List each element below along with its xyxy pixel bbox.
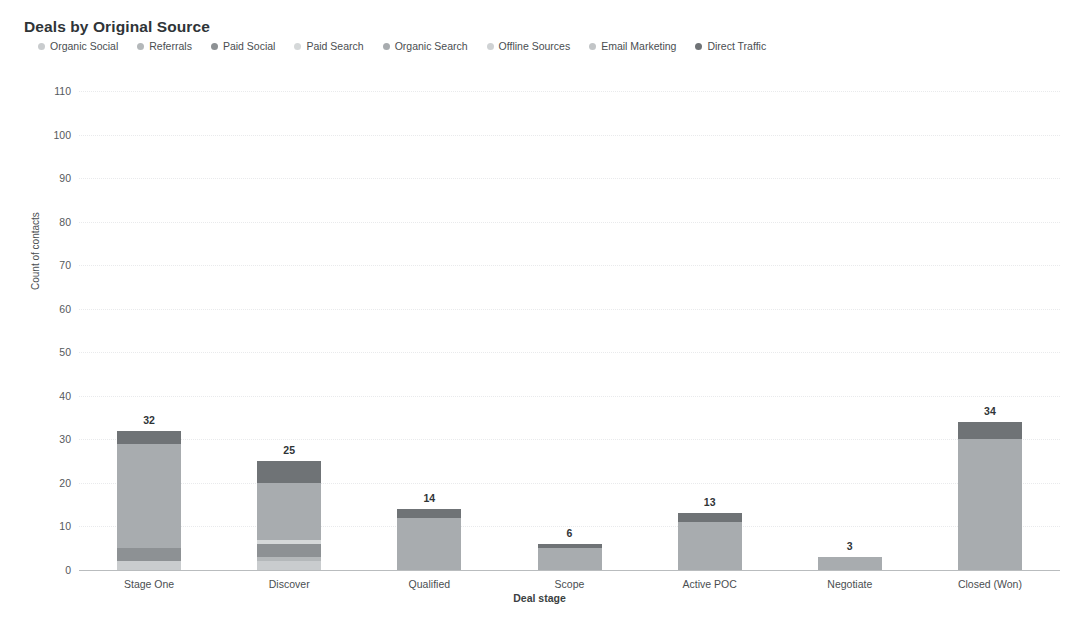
bar-column[interactable]	[257, 461, 321, 570]
gridline	[79, 91, 1060, 92]
bar-segment[interactable]	[958, 439, 1022, 570]
gridline	[79, 178, 1060, 179]
x-axis-line	[79, 570, 1060, 571]
y-axis-tick-label: 70	[31, 259, 71, 271]
bar-segment[interactable]	[257, 561, 321, 570]
gridline	[79, 265, 1060, 266]
bar-segment[interactable]	[958, 422, 1022, 439]
gridline	[79, 352, 1060, 353]
chart-plot-wrapper: Count of contacts 0102030405060708090100…	[0, 0, 1079, 632]
bar-value-label: 25	[283, 444, 295, 456]
gridline	[79, 309, 1060, 310]
bar-column[interactable]	[117, 431, 181, 570]
gridline	[79, 396, 1060, 397]
bar-column[interactable]	[397, 509, 461, 570]
x-axis-title: Deal stage	[0, 592, 1079, 604]
y-axis-tick-label: 50	[31, 346, 71, 358]
bar-segment[interactable]	[257, 544, 321, 557]
gridline	[79, 135, 1060, 136]
bar-column[interactable]	[958, 422, 1022, 570]
bar-column[interactable]	[818, 557, 882, 570]
y-axis-tick-label: 30	[31, 433, 71, 445]
bar-value-label: 34	[984, 405, 996, 417]
bar-value-label: 3	[847, 540, 853, 552]
y-axis-tick-label: 40	[31, 390, 71, 402]
x-axis-tick-label: Scope	[555, 578, 585, 590]
bar-segment[interactable]	[397, 518, 461, 570]
gridline	[79, 483, 1060, 484]
bar-segment[interactable]	[538, 548, 602, 570]
bar-segment[interactable]	[117, 548, 181, 561]
y-axis-tick-label: 60	[31, 303, 71, 315]
y-axis-tick-label: 110	[31, 85, 71, 97]
x-axis-tick-label: Discover	[269, 578, 310, 590]
bar-segment[interactable]	[117, 444, 181, 549]
bar-segment[interactable]	[257, 461, 321, 483]
gridline	[79, 222, 1060, 223]
x-axis-tick-label: Qualified	[409, 578, 450, 590]
y-axis-tick-label: 0	[31, 564, 71, 576]
x-axis-tick-label: Negotiate	[827, 578, 872, 590]
gridline	[79, 439, 1060, 440]
x-axis-tick-label: Active POC	[683, 578, 737, 590]
bar-column[interactable]	[678, 513, 742, 570]
y-axis-tick-labels: 0102030405060708090100110	[31, 91, 71, 570]
bar-segment[interactable]	[257, 483, 321, 540]
bar-segment[interactable]	[678, 513, 742, 522]
y-axis-tick-label: 20	[31, 477, 71, 489]
y-axis-tick-label: 80	[31, 216, 71, 228]
x-axis-tick-label: Closed (Won)	[958, 578, 1022, 590]
bar-segment[interactable]	[117, 431, 181, 444]
plot-area: 322514613334	[79, 91, 1060, 570]
bar-segment[interactable]	[678, 522, 742, 570]
bar-segment[interactable]	[397, 509, 461, 518]
y-axis-tick-label: 10	[31, 520, 71, 532]
bar-column[interactable]	[538, 544, 602, 570]
bar-segment[interactable]	[818, 557, 882, 570]
bar-value-label: 14	[424, 492, 436, 504]
y-axis-tick-label: 100	[31, 129, 71, 141]
x-axis-tick-label: Stage One	[124, 578, 174, 590]
bar-value-label: 13	[704, 496, 716, 508]
y-axis-tick-label: 90	[31, 172, 71, 184]
bar-segment[interactable]	[117, 561, 181, 570]
bar-value-label: 6	[567, 527, 573, 539]
bar-value-label: 32	[143, 414, 155, 426]
